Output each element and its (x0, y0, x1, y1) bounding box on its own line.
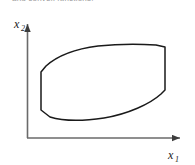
x1-axis-label-base: x (167, 148, 174, 162)
x2-axis-label: x 2 (13, 17, 25, 33)
convex-set-outline (41, 44, 165, 120)
x1-axis-label: x 1 (167, 148, 179, 164)
convex-set-figure: and convex functions. x 2 x 1 (0, 0, 195, 165)
x2-axis-label-subscript: 2 (21, 24, 25, 33)
plot-canvas: x 2 x 1 (0, 0, 195, 165)
x1-axis-label-subscript: 1 (175, 155, 179, 164)
x2-axis-label-base: x (13, 17, 20, 31)
